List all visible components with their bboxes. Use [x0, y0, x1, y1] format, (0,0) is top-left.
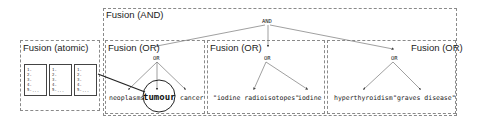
diagram-edges: [0, 0, 477, 122]
